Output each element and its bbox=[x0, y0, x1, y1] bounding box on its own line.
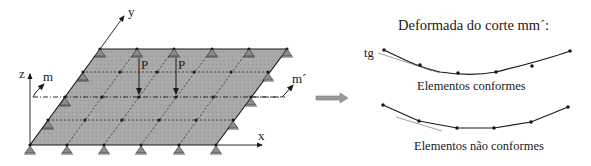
z-axis-label: z bbox=[19, 67, 25, 80]
load-label-1: P bbox=[141, 58, 148, 71]
right-arrow-icon bbox=[316, 93, 348, 103]
tangent-label: tg bbox=[364, 47, 374, 60]
curve-nonconforming bbox=[381, 103, 570, 131]
section-label-m-prime: m´ bbox=[292, 72, 306, 85]
section-label-m: m bbox=[43, 70, 53, 83]
x-axis-label: x bbox=[258, 129, 265, 142]
y-axis-label: y bbox=[128, 5, 135, 18]
curve-conforming bbox=[378, 48, 572, 75]
plate bbox=[30, 49, 287, 145]
caption-conforming: Elementos conformes bbox=[417, 80, 526, 93]
deformed-shape-title: Deformada do corte mm´: bbox=[398, 18, 549, 33]
caption-nonconforming: Elementos não conformes bbox=[414, 140, 544, 153]
load-label-2: P bbox=[178, 58, 185, 71]
